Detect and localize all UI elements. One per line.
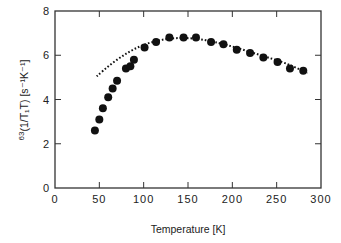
data-point bbox=[233, 46, 241, 54]
data-point bbox=[299, 67, 307, 75]
data-point bbox=[95, 115, 103, 123]
data-points bbox=[91, 34, 307, 135]
data-point bbox=[286, 65, 294, 73]
y-tick-label: 8 bbox=[43, 5, 50, 17]
data-point bbox=[113, 77, 121, 85]
data-point bbox=[274, 58, 282, 66]
x-tick-label: 150 bbox=[177, 193, 198, 205]
data-point bbox=[104, 93, 112, 101]
data-point bbox=[109, 84, 117, 92]
data-point bbox=[152, 38, 160, 46]
y-tick-label: 6 bbox=[43, 49, 50, 61]
data-point bbox=[180, 34, 188, 42]
data-point bbox=[246, 49, 254, 57]
data-point bbox=[130, 56, 138, 64]
data-point bbox=[219, 40, 227, 48]
y-axis-label-group: 63(1/T₁T) [s⁻¹K⁻¹] bbox=[17, 59, 30, 140]
data-point bbox=[99, 104, 107, 112]
data-point bbox=[165, 34, 173, 42]
x-tick-label: 250 bbox=[266, 193, 287, 205]
chart: 050100150200250300 02468 Temperature [K]… bbox=[0, 0, 341, 243]
x-axis-label: Temperature [K] bbox=[151, 223, 226, 235]
data-point bbox=[141, 44, 149, 52]
x-tick-label: 200 bbox=[222, 193, 243, 205]
y-tick-label: 4 bbox=[43, 94, 50, 106]
x-tick-label: 300 bbox=[310, 193, 331, 205]
x-tick-label: 0 bbox=[51, 193, 58, 205]
y-axis-label: 63(1/T₁T) [s⁻¹K⁻¹] bbox=[17, 59, 30, 140]
x-tick-labels: 050100150200250300 bbox=[51, 193, 331, 205]
data-point bbox=[192, 34, 200, 42]
data-point bbox=[91, 126, 99, 134]
y-tick-label: 2 bbox=[43, 138, 50, 150]
y-tick-label: 0 bbox=[43, 182, 50, 194]
data-point bbox=[259, 53, 267, 61]
y-tick-labels: 02468 bbox=[43, 5, 50, 194]
y-axis-label-main: (1/T₁T) [s⁻¹K⁻¹] bbox=[18, 59, 30, 131]
x-tick-label: 50 bbox=[92, 193, 106, 205]
data-point bbox=[207, 38, 215, 46]
x-tick-label: 100 bbox=[133, 193, 154, 205]
